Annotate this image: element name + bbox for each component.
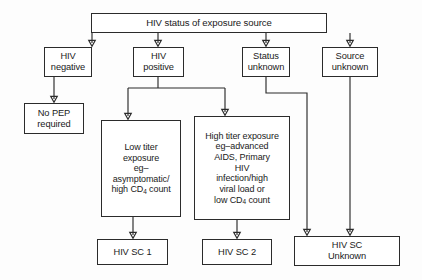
arrow-hiv-sc-2 bbox=[234, 232, 241, 238]
node-root[interactable]: HIV status of exposure source bbox=[91, 13, 327, 33]
node-source-unknown[interactable]: Sourceunknown bbox=[322, 47, 378, 77]
node-label-high-titer-exposure: High titer exposureeg–advancedAIDS, Prim… bbox=[195, 131, 289, 205]
node-status-unknown[interactable]: Statusunknown bbox=[242, 47, 290, 77]
node-no-pep-required[interactable]: No PEPrequired bbox=[24, 103, 84, 134]
node-label-hiv-positive: HIVpositive bbox=[134, 51, 183, 73]
node-hiv-sc-2[interactable]: HIV SC 2 bbox=[202, 239, 272, 265]
node-label-source-unknown: Sourceunknown bbox=[323, 51, 377, 73]
node-label-hiv-sc-1: HIV SC 1 bbox=[98, 247, 167, 258]
node-label-hiv-sc-2: HIV SC 2 bbox=[203, 247, 271, 258]
arrow-status-unknown bbox=[263, 40, 270, 46]
node-label-low-titer-exposure: Low titerexposureeg–asymptomatic/high CD… bbox=[102, 142, 180, 195]
node-low-titer-exposure[interactable]: Low titerexposureeg–asymptomatic/high CD… bbox=[101, 120, 181, 217]
arrow-hiv-positive bbox=[155, 40, 162, 46]
arrow-hiv-negative bbox=[89, 40, 96, 46]
arrow-hiv-sc-unknown-a bbox=[304, 229, 311, 235]
arrow-no-pep bbox=[51, 96, 58, 102]
arrow-hiv-sc-1 bbox=[130, 232, 137, 238]
arrow-hiv-sc-unknown-b bbox=[347, 229, 354, 235]
node-label-no-pep-required: No PEPrequired bbox=[25, 108, 83, 130]
node-label-status-unknown: Statusunknown bbox=[243, 51, 289, 73]
node-hiv-positive[interactable]: HIVpositive bbox=[133, 47, 184, 77]
node-hiv-sc-unknown[interactable]: HIV SCUnknown bbox=[294, 236, 400, 266]
arrow-high-titer bbox=[222, 109, 229, 115]
arrow-low-titer bbox=[125, 113, 132, 119]
node-hiv-sc-1[interactable]: HIV SC 1 bbox=[97, 239, 168, 265]
arrow-source-unknown bbox=[347, 40, 354, 46]
node-hiv-negative[interactable]: HIVnegative bbox=[44, 47, 92, 77]
node-label-hiv-sc-unknown: HIV SCUnknown bbox=[295, 240, 399, 262]
node-high-titer-exposure[interactable]: High titer exposureeg–advancedAIDS, Prim… bbox=[194, 116, 290, 220]
flowchart-canvas: HIV status of exposure sourceHIVnegative… bbox=[0, 0, 422, 280]
node-label-hiv-negative: HIVnegative bbox=[45, 51, 91, 73]
node-label-root: HIV status of exposure source bbox=[92, 17, 326, 28]
